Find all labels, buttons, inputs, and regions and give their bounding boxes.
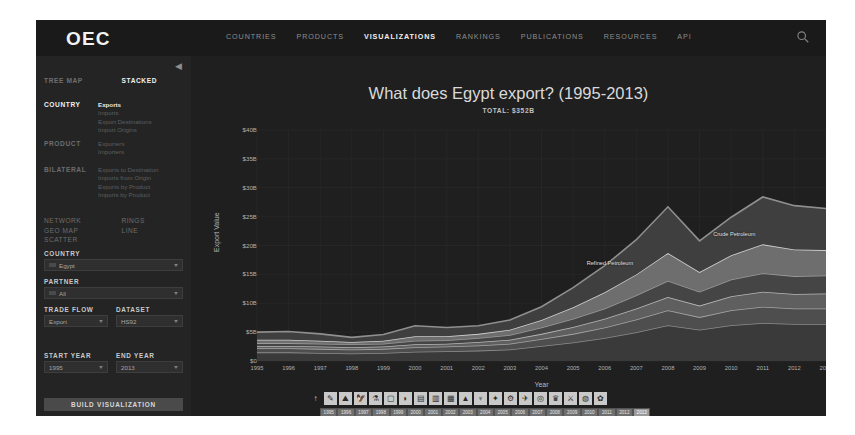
instruments-icon[interactable]: ◎ (534, 392, 547, 405)
start-year-select[interactable]: 1995 (44, 361, 108, 373)
nav-link-rankings[interactable]: RANKINGS (456, 32, 501, 41)
year-button-2006[interactable]: 2006 (511, 408, 528, 416)
weapons-icon[interactable]: ⚔ (564, 392, 577, 405)
nav-link-visualizations[interactable]: VISUALIZATIONS (364, 32, 436, 41)
country-select[interactable]: Egypt (44, 259, 183, 271)
year-button-2003[interactable]: 2003 (459, 408, 476, 416)
field-partner-label: PARTNER (44, 278, 183, 285)
x-axis-label: Year (257, 381, 826, 388)
series-annotation: Crude Petroleum (713, 231, 755, 237)
dataset-select[interactable]: HS92 (116, 315, 183, 327)
sidebar-group-country-label: COUNTRY (36, 101, 98, 135)
viz-type-toggle: TREE MAP STACKED (36, 77, 191, 87)
year-button-2009[interactable]: 2009 (563, 408, 580, 416)
sidebar-item-country-import-origins[interactable]: Import Origins (98, 126, 191, 134)
sidebar-group-country-items: Exports Imports Export Destinations Impo… (98, 101, 191, 135)
nav-link-publications[interactable]: PUBLICATIONS (521, 32, 584, 41)
nav-link-countries[interactable]: COUNTRIES (226, 32, 276, 41)
sidebar-mode-rings[interactable]: RINGS (122, 216, 192, 226)
cursor-icon[interactable]: ↑ (309, 392, 322, 405)
field-country-label: COUNTRY (44, 250, 183, 257)
sidebar-item-country-imports[interactable]: Imports (98, 109, 191, 117)
footwear-icon[interactable]: ▲ (459, 392, 472, 405)
sidebar-item-product-importers[interactable]: Importers (98, 148, 191, 156)
end-year-select[interactable]: 2013 (116, 361, 183, 373)
year-button-2012[interactable]: 2012 (616, 408, 633, 416)
sidebar-item-product-exporters[interactable]: Exporters (98, 140, 191, 148)
year-button-1997[interactable]: 1997 (355, 408, 372, 416)
wood-icon[interactable]: ▤ (414, 392, 427, 405)
search-icon[interactable] (796, 30, 810, 44)
field-partner: PARTNER All (44, 278, 183, 299)
collapse-sidebar-icon[interactable]: ◀ (173, 61, 183, 71)
sidebar-item-bilateral-imports-from-origin[interactable]: Imports from Origin (98, 174, 191, 182)
chevron-down-icon (174, 292, 178, 295)
viz-type-stacked-label: STACKED (122, 77, 192, 84)
stacked-area-chart[interactable]: Export Value $40B$35B$30B$25B$20B$15B$10… (191, 56, 826, 416)
partner-flag-icon (49, 291, 56, 296)
x-axis-tick: 2004 (535, 365, 548, 371)
sidebar-item-bilateral-imports-by-product[interactable]: Imports by Product (98, 191, 191, 199)
oec-visualization-screen: OEC COUNTRIESPRODUCTSVISUALIZATIONSRANKI… (0, 0, 855, 435)
year-button-2002[interactable]: 2002 (442, 408, 459, 416)
x-axis-tick: 1997 (314, 365, 327, 371)
sidebar-item-bilateral-exports-to-destination[interactable]: Exports to Destination (98, 166, 191, 174)
unspecified-icon[interactable]: ◍ (579, 392, 592, 405)
year-button-1996[interactable]: 1996 (337, 408, 354, 416)
services-icon[interactable]: ✿ (594, 392, 607, 405)
leather-icon[interactable]: ◗ (399, 392, 412, 405)
sidebar-mode-network[interactable]: NETWORK (44, 216, 114, 226)
bird-icon[interactable]: 🦅 (354, 392, 367, 405)
textiles-icon[interactable]: ▦ (444, 392, 457, 405)
product-category-toolbar: ↑✎⛰🦅⚗▢◗▤▥▦▲♆✦⚙✈◎♛⚔◍✿ (309, 392, 607, 405)
year-button-1999[interactable]: 1999 (390, 408, 407, 416)
sidebar-item-country-exports[interactable]: Exports (98, 101, 191, 109)
year-button-1995[interactable]: 1995 (320, 408, 337, 416)
x-axis-tick: 1999 (377, 365, 390, 371)
sidebar-item-bilateral-exports-by-product[interactable]: Exports by Product (98, 183, 191, 191)
year-button-2005[interactable]: 2005 (494, 408, 511, 416)
end-year-select-value: 2013 (121, 364, 135, 371)
nav-links: COUNTRIESPRODUCTSVISUALIZATIONSRANKINGSP… (226, 32, 692, 41)
pencil-icon[interactable]: ✎ (324, 392, 337, 405)
x-axis-tick: 2008 (661, 365, 674, 371)
flask-icon[interactable]: ⚗ (369, 392, 382, 405)
field-trade-flow-label: TRADE FLOW (44, 306, 108, 313)
sidebar-group-bilateral-label: BILATERAL (36, 166, 98, 200)
year-button-2011[interactable]: 2011 (598, 408, 615, 416)
year-button-2007[interactable]: 2007 (529, 408, 546, 416)
sidebar-mode-line[interactable]: LINE (122, 226, 192, 236)
sidebar-group-bilateral-items: Exports to Destination Imports from Orig… (98, 166, 191, 200)
nav-link-products[interactable]: PRODUCTS (296, 32, 344, 41)
machines-icon[interactable]: ⚙ (504, 392, 517, 405)
trade-flow-select[interactable]: Export (44, 315, 108, 327)
year-button-2008[interactable]: 2008 (546, 408, 563, 416)
year-button-2004[interactable]: 2004 (477, 408, 494, 416)
sidebar-mode-geo-map[interactable]: GEO MAP (44, 226, 114, 236)
year-button-1998[interactable]: 1998 (372, 408, 389, 416)
nav-link-api[interactable]: API (677, 32, 691, 41)
metals-icon[interactable]: ✦ (489, 392, 502, 405)
plastics-icon[interactable]: ▢ (384, 392, 397, 405)
transport-icon[interactable]: ✈ (519, 392, 532, 405)
series-annotation: Refined Petroleum (587, 260, 633, 266)
sidebar-item-country-export-destinations[interactable]: Export Destinations (98, 118, 191, 126)
year-button-2010[interactable]: 2010 (581, 408, 598, 416)
sidebar-mode-scatter[interactable]: SCATTER (44, 235, 114, 245)
viz-type-treemap[interactable]: TREE MAP (36, 77, 114, 87)
x-axis-tick: 1996 (282, 365, 295, 371)
year-button-2000[interactable]: 2000 (407, 408, 424, 416)
oec-logo[interactable]: OEC (66, 28, 111, 50)
x-axis-tick: 2002 (472, 365, 485, 371)
year-button-2013[interactable]: 2013 (633, 408, 650, 416)
nav-link-resources[interactable]: RESOURCES (604, 32, 658, 41)
mushroom-icon[interactable]: ⛰ (339, 392, 352, 405)
sidebar-modes-left: NETWORK GEO MAP SCATTER (36, 216, 114, 245)
stone-icon[interactable]: ♆ (474, 392, 487, 405)
partner-select[interactable]: All (44, 287, 183, 299)
year-button-2001[interactable]: 2001 (424, 408, 441, 416)
viz-type-stacked[interactable]: STACKED (114, 77, 192, 87)
arts-icon[interactable]: ♛ (549, 392, 562, 405)
build-visualization-button[interactable]: BUILD VISUALIZATION (44, 398, 183, 411)
paper-icon[interactable]: ▥ (429, 392, 442, 405)
